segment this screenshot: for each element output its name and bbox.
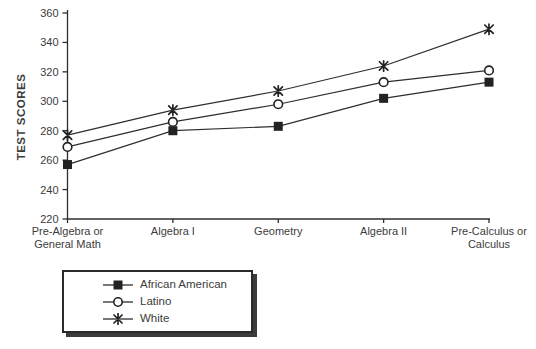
star-marker-icon: [63, 130, 71, 140]
filled-square-marker-icon: [485, 78, 494, 87]
open-circle-marker-icon: [103, 296, 133, 308]
x-category-label: Geometry: [254, 225, 303, 237]
series-latino: [63, 66, 493, 151]
legend-label: White: [140, 313, 169, 325]
chart-figure: 220240260280300320340360Pre-Algebra orGe…: [0, 0, 536, 349]
legend-item-latino: Latino: [103, 296, 251, 308]
star-marker-icon: [103, 313, 133, 325]
y-tick-label: 240: [40, 184, 58, 196]
y-axis-title: TEST SCORES: [15, 74, 27, 161]
y-tick-label: 320: [40, 66, 58, 78]
legend-item-african-american: African American: [103, 279, 251, 291]
star-marker-icon: [485, 24, 493, 34]
filled-square-marker-icon: [103, 279, 133, 291]
open-circle-marker-icon: [63, 143, 72, 152]
filled-square-marker-icon: [63, 160, 72, 169]
open-circle-marker-icon: [274, 100, 283, 109]
x-category-label: Algebra II: [360, 225, 407, 237]
open-circle-marker-icon: [485, 66, 494, 75]
legend-item-white: White: [103, 313, 251, 325]
filled-square-marker-icon: [168, 126, 177, 135]
x-category-label: Algebra I: [151, 225, 195, 237]
x-category-label: General Math: [34, 238, 101, 250]
y-tick-label: 280: [40, 125, 58, 137]
y-tick-label: 260: [40, 154, 58, 166]
y-tick-label: 220: [40, 213, 58, 225]
star-marker-icon: [379, 61, 387, 71]
open-circle-marker-icon: [379, 78, 388, 87]
series-line: [68, 29, 490, 135]
legend-label: Latino: [140, 296, 171, 308]
axes: [63, 10, 491, 223]
y-tick-label: 300: [40, 95, 58, 107]
legend-box: African American Latino White: [62, 270, 253, 333]
legend-label: African American: [140, 279, 227, 291]
x-category-label: Pre-Calculus or: [451, 225, 527, 237]
y-tick-label: 360: [40, 7, 58, 19]
filled-square-marker-icon: [379, 94, 388, 103]
open-circle-marker-icon: [169, 118, 178, 127]
y-tick-label: 340: [40, 36, 58, 48]
x-category-label: Pre-Algebra or: [32, 225, 104, 237]
x-category-label: Calculus: [468, 238, 511, 250]
filled-square-marker-icon: [274, 122, 283, 131]
